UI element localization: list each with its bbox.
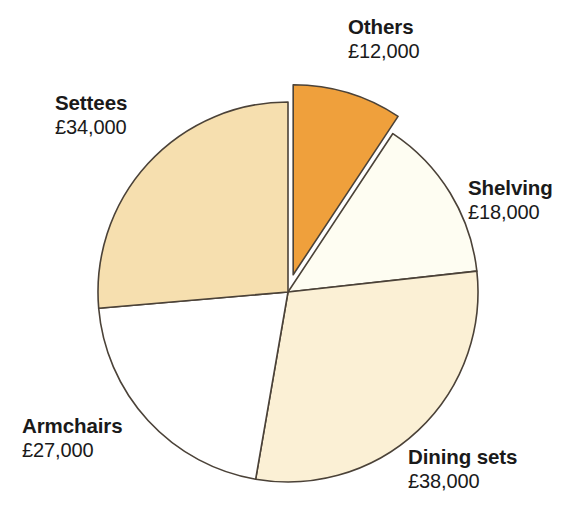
slice-label-settees-value: £34,000 (55, 115, 127, 139)
slice-label-armchairs-value: £27,000 (22, 438, 123, 462)
slice-label-dining-sets-name: Dining sets (408, 444, 517, 469)
slice-label-shelving-value: £18,000 (468, 200, 553, 224)
slice-label-dining-sets-value: £38,000 (408, 469, 517, 493)
slice-label-others: Others £12,000 (348, 14, 420, 63)
slice-label-others-name: Others (348, 14, 420, 39)
slice-label-others-value: £12,000 (348, 39, 420, 63)
slice-label-shelving: Shelving £18,000 (468, 175, 553, 224)
pie-chart-figure: Others £12,000 Shelving £18,000 Dining s… (0, 0, 580, 518)
pie-slice-armchairs (99, 292, 288, 479)
slice-label-shelving-name: Shelving (468, 175, 553, 200)
slice-label-settees: Settees £34,000 (55, 90, 127, 139)
slice-label-settees-name: Settees (55, 90, 127, 115)
slice-label-dining-sets: Dining sets £38,000 (408, 444, 517, 493)
slice-label-armchairs: Armchairs £27,000 (22, 413, 123, 462)
pie-slice-group (98, 85, 478, 482)
slice-label-armchairs-name: Armchairs (22, 413, 123, 438)
